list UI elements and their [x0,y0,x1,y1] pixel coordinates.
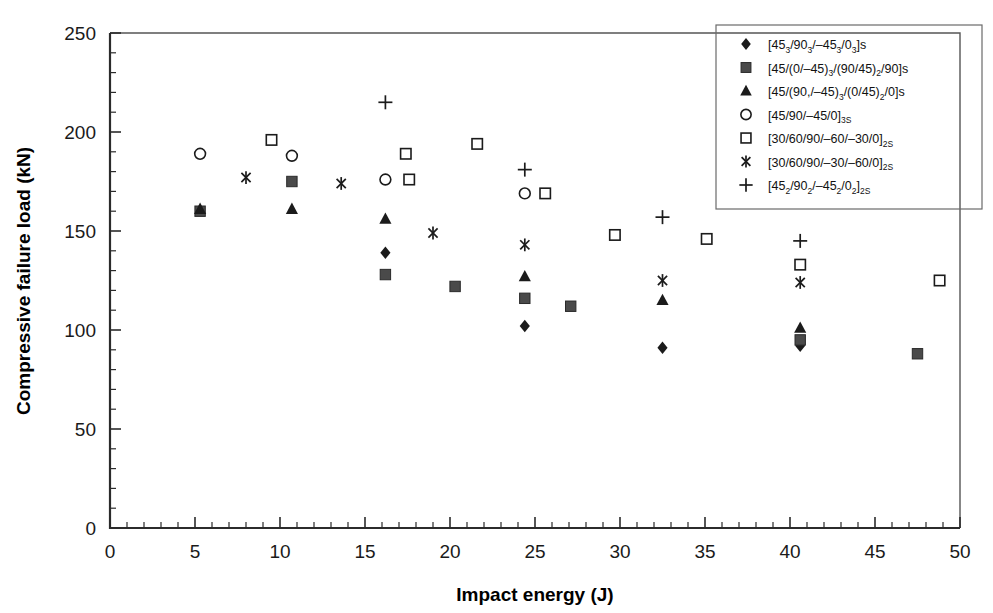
marker-open-square [266,135,276,145]
x-tick-label: 5 [190,541,201,562]
x-tick-label: 0 [105,541,116,562]
marker-filled-square [912,349,922,359]
y-axis-title: Compressive failure load (kN) [13,147,34,415]
y-tick-label: 50 [75,419,96,440]
x-axis-title: Impact energy (J) [456,584,613,605]
marker-open-circle [519,188,530,199]
scatter-plot-svg: 05101520253035404550 050100150200250 Imp… [0,0,993,613]
marker-filled-square [287,176,297,186]
y-tick-label: 0 [85,518,96,539]
marker-open-square [404,174,414,184]
x-tick-label: 35 [694,541,715,562]
marker-open-square [610,230,620,240]
marker-filled-square [450,281,460,291]
y-tick-label: 250 [64,23,96,44]
marker-open-circle [287,150,298,161]
marker-filled-square [566,301,576,311]
marker-open-circle [741,109,751,119]
marker-open-square [472,139,482,149]
marker-filled-square [380,269,390,279]
x-tick-label: 20 [439,541,460,562]
x-tick-label: 10 [269,541,290,562]
x-tick-label: 25 [524,541,545,562]
marker-filled-square [741,63,751,73]
marker-open-square [795,259,805,269]
marker-filled-square [520,293,530,303]
y-tick-label: 100 [64,320,96,341]
y-tick-label: 200 [64,122,96,143]
x-tick-label: 50 [949,541,970,562]
marker-open-square [741,133,751,143]
marker-open-circle [380,174,391,185]
marker-open-square [702,234,712,244]
marker-open-square [934,275,944,285]
marker-open-circle [195,148,206,159]
x-tick-label: 45 [864,541,885,562]
marker-open-square [540,188,550,198]
x-tick-label: 30 [609,541,630,562]
marker-filled-square [795,335,805,345]
marker-open-square [401,149,411,159]
y-tick-label: 150 [64,221,96,242]
x-tick-label: 15 [354,541,375,562]
x-tick-label: 40 [779,541,800,562]
chart-figure: 05101520253035404550 050100150200250 Imp… [0,0,993,613]
